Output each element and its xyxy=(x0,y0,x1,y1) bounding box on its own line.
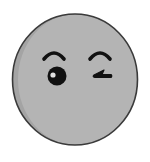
winking-face-emoji: winking face xyxy=(0,0,150,162)
face-icon xyxy=(12,14,138,145)
eye-highlight xyxy=(50,72,55,77)
face-graphic xyxy=(0,0,150,162)
open-eye-icon xyxy=(48,67,67,86)
